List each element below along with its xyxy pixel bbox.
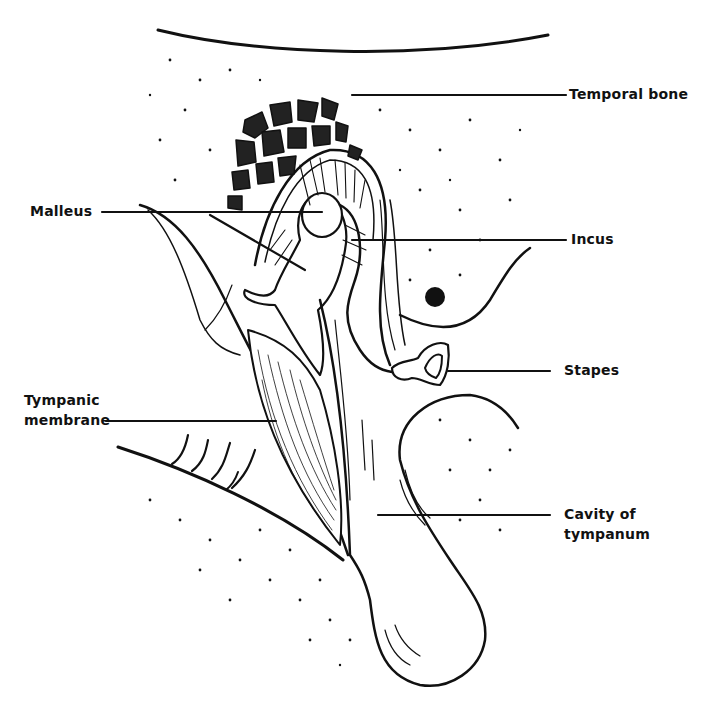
tympanic-membrane-shape [248, 330, 341, 545]
mastoid-air-cells [228, 98, 362, 210]
label-tympanic-membrane-line2: membrane [24, 412, 110, 429]
label-stapes: Stapes [564, 362, 619, 379]
skull-outline [158, 30, 548, 51]
malleus-head [302, 193, 342, 237]
label-cavity-of-tympanum-line2: tympanum [564, 526, 650, 543]
label-tympanic-membrane-line1: Tympanic [24, 392, 100, 409]
label-malleus: Malleus [30, 203, 92, 220]
label-temporal-bone: Temporal bone [569, 86, 688, 103]
stapes-shape [392, 343, 449, 385]
middle-ear-diagram [0, 0, 703, 706]
label-cavity-of-tympanum-line1: Cavity of [564, 506, 636, 523]
bone-boundary-right [400, 248, 530, 327]
round-foramen [425, 287, 445, 307]
label-incus: Incus [571, 231, 614, 248]
